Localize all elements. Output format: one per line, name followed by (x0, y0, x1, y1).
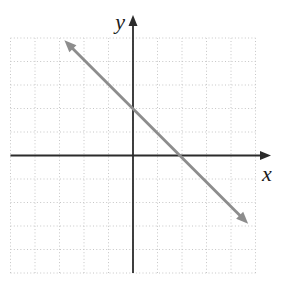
linear-graph-figure: y x (0, 0, 286, 295)
line-segment (69, 45, 243, 218)
x-axis-arrowhead-icon (260, 151, 271, 160)
x-axis-label: x (261, 161, 272, 186)
axes (11, 15, 272, 273)
y-axis-arrowhead-icon (129, 15, 138, 26)
graphed-line (64, 40, 248, 223)
y-axis-label: y (113, 9, 125, 34)
coordinate-plane-svg: y x (0, 0, 286, 295)
